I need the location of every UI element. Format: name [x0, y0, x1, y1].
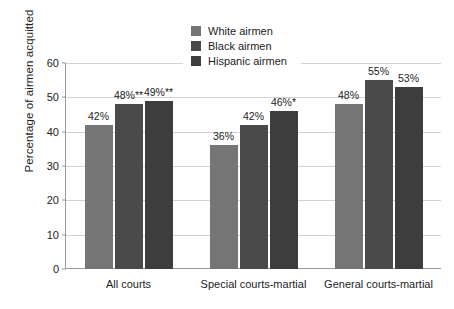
bar-value-label: 55%	[368, 65, 389, 77]
bar-value-label: 36%	[213, 130, 234, 142]
legend-swatch-icon	[191, 26, 201, 36]
y-tick-mark	[62, 234, 66, 235]
y-axis-title: Percentage of airmen acquitted	[23, 0, 39, 191]
legend-swatch-icon	[191, 56, 201, 66]
bar-value-label: 49%**	[144, 86, 173, 98]
bar-value-label: 42%	[243, 110, 264, 122]
y-tick-label: 30	[47, 160, 59, 172]
bar[interactable]: 48%**	[115, 104, 143, 269]
legend-item[interactable]: Hispanic airmen	[191, 53, 293, 68]
bar[interactable]: 42%	[240, 125, 268, 269]
x-category-label: All courts	[106, 278, 151, 290]
bar[interactable]: 53%	[395, 87, 423, 269]
bar[interactable]: 46%*	[270, 111, 298, 269]
bar[interactable]: 42%	[85, 125, 113, 269]
y-tick-mark	[62, 200, 66, 201]
y-tick-mark	[62, 131, 66, 132]
y-tick-mark	[62, 269, 66, 270]
y-tick-label: 10	[47, 229, 59, 241]
bar-value-label: 53%	[398, 72, 419, 84]
bar-value-label: 48%	[338, 89, 359, 101]
y-tick-label: 20	[47, 194, 59, 206]
legend-item-label: White airmen	[208, 25, 273, 37]
legend-swatch-icon	[191, 41, 201, 51]
bar[interactable]: 36%	[210, 145, 238, 269]
bar-value-label: 42%	[88, 110, 109, 122]
legend-item-label: Hispanic airmen	[208, 55, 287, 67]
y-tick-mark	[62, 97, 66, 98]
legend-item[interactable]: Black airmen	[191, 38, 293, 53]
bar-chart: Percentage of airmen acquitted 010203040…	[0, 0, 454, 309]
y-tick-label: 50	[47, 91, 59, 103]
bar-group-all-courts: 42%48%**49%**All courts	[85, 63, 173, 269]
bar[interactable]: 49%**	[145, 101, 173, 269]
bar-group-special-courts-martial: 36%42%46%*Special courts-martial	[210, 63, 298, 269]
bar-value-label: 46%*	[271, 96, 296, 108]
chart-legend: White airmenBlack airmenHispanic airmen	[183, 17, 301, 74]
y-tick-mark	[62, 63, 66, 64]
legend-item-label: Black airmen	[208, 40, 272, 52]
legend-item[interactable]: White airmen	[191, 23, 293, 38]
x-category-label: General courts-martial	[324, 278, 433, 290]
bar[interactable]: 48%	[335, 104, 363, 269]
y-tick-label: 60	[47, 57, 59, 69]
bar-value-label: 48%**	[114, 89, 143, 101]
y-tick-label: 40	[47, 126, 59, 138]
bar[interactable]: 55%	[365, 80, 393, 269]
y-tick-mark	[62, 166, 66, 167]
bar-group-general-courts-martial: 48%55%53%General courts-martial	[335, 63, 423, 269]
x-category-label: Special courts-martial	[201, 278, 307, 290]
y-tick-label: 0	[53, 263, 59, 275]
plot-area: 010203040506042%48%**49%**All courts36%4…	[66, 63, 441, 269]
